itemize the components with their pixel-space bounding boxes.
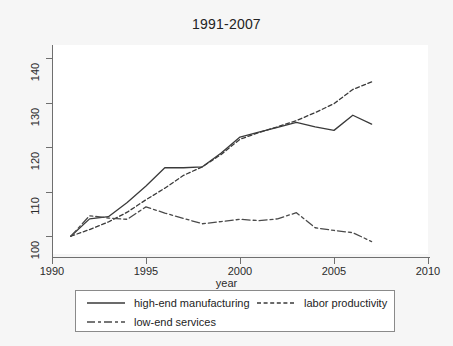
- x-tick-label: 1995: [126, 265, 166, 277]
- plot-area: [52, 45, 428, 254]
- y-tick-mark: [46, 192, 53, 193]
- legend-row-1: high-end manufacturing labor productivit…: [76, 293, 394, 313]
- y-tick-mark: [46, 103, 53, 104]
- chart-legend: high-end manufacturing labor productivit…: [75, 290, 395, 332]
- chart-screenshot: 1991-2007 100110120130140 19901995200020…: [0, 0, 453, 346]
- series-line-labor-productivity: [71, 82, 372, 236]
- x-tick-label: 2010: [408, 265, 448, 277]
- y-tick-mark: [46, 58, 53, 59]
- x-tick-mark: [146, 258, 147, 264]
- y-tick-label: 120: [29, 146, 41, 176]
- x-tick-mark: [334, 258, 335, 264]
- legend-label-high-end-manufacturing: high-end manufacturing: [134, 297, 250, 309]
- series-layer: [71, 82, 372, 242]
- legend-entry-high-end-manufacturing: high-end manufacturing: [86, 293, 250, 313]
- y-tick-label: 140: [29, 57, 41, 87]
- y-tick-label: 100: [29, 235, 41, 265]
- x-tick-label: 1990: [32, 265, 72, 277]
- legend-label-low-end-services: low-end services: [134, 316, 216, 328]
- legend-entry-low-end-services: low-end services: [86, 312, 216, 332]
- legend-row-2: low-end services: [76, 312, 394, 332]
- y-tick-label: 130: [29, 102, 41, 132]
- legend-swatch-dashdot-icon: [86, 316, 126, 328]
- x-tick-label: 2000: [220, 265, 260, 277]
- y-tick-mark: [46, 236, 53, 237]
- series-line-low-end-services: [71, 207, 372, 242]
- x-tick-mark: [52, 258, 53, 264]
- x-tick-mark: [428, 258, 429, 264]
- plot-svg: [52, 45, 428, 254]
- y-axis-line: [52, 45, 53, 258]
- legend-swatch-solid-icon: [86, 297, 126, 309]
- legend-swatch-dashed-icon: [256, 297, 296, 309]
- legend-entry-labor-productivity: labor productivity: [256, 293, 387, 313]
- x-axis-title: year: [0, 277, 453, 289]
- legend-label-labor-productivity: labor productivity: [304, 297, 387, 309]
- y-tick-mark: [46, 147, 53, 148]
- x-tick-mark: [240, 258, 241, 264]
- x-axis-line: [52, 257, 430, 258]
- y-tick-label: 110: [29, 191, 41, 221]
- chart-title: 1991-2007: [0, 16, 453, 32]
- x-tick-label: 2005: [314, 265, 354, 277]
